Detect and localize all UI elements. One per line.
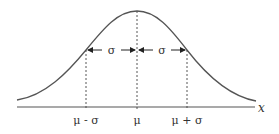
tick-label-mu-minus-sigma: μ - σ [73,114,99,127]
x-axis-label: x [258,101,265,115]
bell-curve [17,11,256,101]
sigma-label-left: σ [108,44,116,57]
normal-curve-diagram: x σ σ μ - σ μ μ + σ [0,0,279,134]
tick-label-mu-plus-sigma: μ + σ [172,114,203,127]
tick-label-mu: μ [133,114,140,127]
sigma-label-right: σ [158,44,166,57]
